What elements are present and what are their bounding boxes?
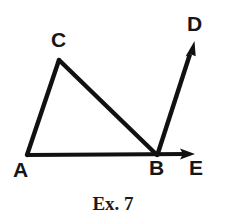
vertex-label-E: E [189,157,203,178]
vertex-label-D: D [187,13,202,34]
figure-container: A C B E D Ex. 7 [0,0,226,221]
ray-AE-shaft [27,154,188,155]
figure-caption: Ex. 7 [0,193,226,215]
vertex-label-C: C [51,29,66,50]
vertex-label-A: A [13,159,28,180]
ray-BD-arrowhead [186,41,196,57]
segment-CB [59,60,157,155]
vertex-label-B: B [149,157,164,178]
segment-AC [27,60,59,155]
ray-BD-shaft [157,54,190,156]
